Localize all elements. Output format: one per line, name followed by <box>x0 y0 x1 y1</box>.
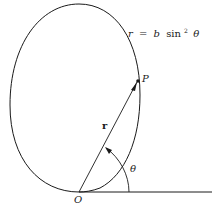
radius-vector <box>79 82 137 192</box>
point-p-label: P <box>141 73 149 84</box>
polar-curve-diagram: r = b sin 2 θ P O r θ <box>0 0 212 203</box>
vector-r-label: r <box>102 120 108 131</box>
origin-label: O <box>74 194 82 203</box>
angle-theta-label: θ <box>130 163 136 174</box>
point-p-marker <box>136 79 140 83</box>
angle-arc <box>106 148 129 192</box>
radius-vector-arrowhead <box>131 82 137 91</box>
angle-arc-arrowhead <box>105 147 112 154</box>
curve-equation: r = b sin 2 θ <box>128 24 199 39</box>
